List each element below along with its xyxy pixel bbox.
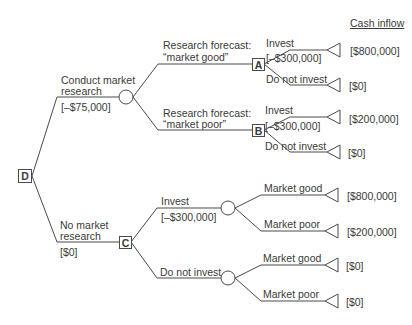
forecast-good-label-1: Research forecast:: [163, 39, 251, 51]
branch-no-research-cost: [$0]: [60, 246, 78, 258]
cn-market-poor-label: Market poor: [263, 288, 319, 300]
c-invest-cost: [–$300,000]: [161, 211, 216, 223]
cash-inflow-header: Cash inflow: [350, 17, 404, 29]
chance-node-research: [119, 90, 133, 104]
payoff-value: [$0]: [348, 147, 366, 159]
chance-node-c-invest: [221, 201, 235, 215]
terminal-triangle-icon: [325, 188, 338, 202]
branch-no-research-label-2: research: [60, 230, 101, 242]
ci-market-good-label: Market good: [264, 182, 322, 194]
decision-node-d: D: [20, 170, 30, 182]
b-invest-cost: [–$300,000]: [265, 120, 320, 132]
payoff-value: [$800,000]: [347, 190, 397, 202]
payoff-value: [$200,000]: [349, 113, 399, 125]
terminal-triangle-icon: [325, 294, 338, 308]
terminal-triangle-icon: [325, 224, 338, 238]
decision-node-b: B: [253, 125, 264, 137]
decision-node-a: A: [253, 59, 264, 71]
payoff-value: [$800,000]: [350, 45, 400, 57]
a-invest-label: Invest: [266, 37, 294, 49]
branch-conduct-label-2: research: [61, 85, 102, 97]
terminal-triangle-icon: [327, 145, 340, 159]
terminal-triangle-icon: [327, 78, 340, 92]
chance-node-c-not-invest: [221, 271, 235, 285]
payoff-value: [$0]: [349, 80, 367, 92]
decision-node-c: C: [120, 237, 131, 249]
forecast-poor-label-2: “market poor”: [163, 118, 226, 130]
terminal-triangle-icon: [325, 258, 338, 272]
b-invest-label: Invest: [265, 104, 293, 116]
terminal-triangle-icon: [327, 43, 340, 57]
b-not-invest-label: Do not invest: [265, 140, 326, 152]
payoff-value: [$0]: [346, 260, 364, 272]
a-invest-cost: [–$300,000]: [266, 52, 321, 64]
a-not-invest-label: Do not invest: [266, 73, 327, 85]
ci-market-poor-label: Market poor: [264, 218, 320, 230]
forecast-good-label-2: “market good”: [163, 51, 228, 63]
payoff-value: [$0]: [346, 296, 364, 308]
c-invest-label: Invest: [161, 195, 189, 207]
terminal-triangle-icon: [327, 110, 340, 124]
c-not-invest-label: Do not invest: [160, 266, 221, 278]
payoff-value: [$200,000]: [347, 226, 397, 238]
cn-market-good-label: Market good: [263, 252, 321, 264]
branch-conduct-cost: [–$75,000]: [61, 101, 111, 113]
